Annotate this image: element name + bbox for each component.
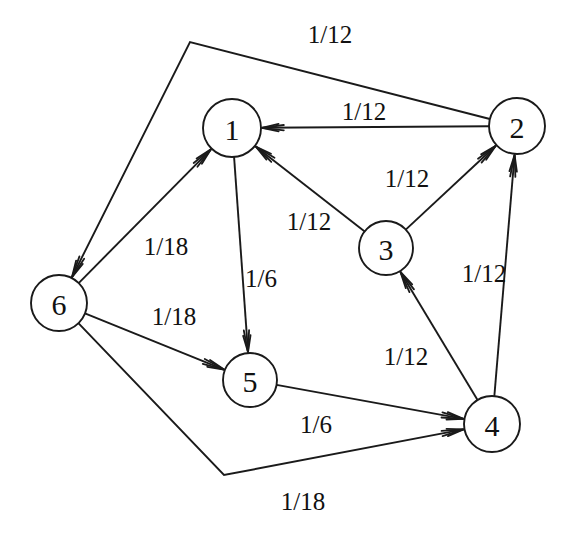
node-6-label: 6 [52, 288, 67, 321]
edge-3-to-1-weight-label: 1/12 [287, 208, 331, 235]
edge-6-to-1 [79, 149, 211, 283]
edge-2-to-6 [72, 42, 490, 277]
node-2[interactable]: 2 [489, 98, 545, 154]
edge-6-to-5-weight-label: 1/18 [152, 303, 196, 330]
edge-4-to-3-weight-label: 1/12 [384, 343, 428, 370]
edge-5-to-4-weight-label: 1/6 [300, 411, 332, 438]
node-3-label: 3 [379, 233, 394, 266]
edge-6-to-1-weight-label: 1/18 [144, 233, 188, 260]
edge-4-to-2-weight-label: 1/12 [462, 260, 506, 287]
edge-6-to-4-weight-label: 1/18 [281, 488, 325, 515]
edge-4-to-3-arrowhead-inner [400, 272, 414, 292]
edge-1-to-5-weight-label: 1/6 [245, 265, 277, 292]
edge-1-to-5 [234, 157, 248, 352]
arrowheads-layer [72, 124, 517, 436]
graph-canvas: 1/121/121/121/121/181/61/181/121/121/61/… [0, 0, 567, 534]
node-5[interactable]: 5 [223, 353, 277, 407]
node-4[interactable]: 4 [464, 396, 520, 452]
edge-2-to-1-weight-label: 1/12 [342, 98, 386, 125]
edge-4-to-3 [400, 272, 477, 400]
node-3[interactable]: 3 [359, 221, 413, 275]
edges-layer [72, 42, 515, 475]
node-1[interactable]: 1 [203, 99, 261, 157]
node-2-label: 2 [510, 111, 525, 144]
edge-2-to-6-weight-label: 1/12 [308, 21, 352, 48]
node-5-label: 5 [243, 365, 258, 398]
node-1-label: 1 [225, 113, 240, 146]
edge-3-to-2-weight-label: 1/12 [385, 165, 429, 192]
node-6[interactable]: 6 [31, 275, 87, 331]
edge-2-to-1 [262, 126, 489, 128]
edge-weight-labels-layer: 1/121/121/121/121/181/61/181/121/121/61/… [144, 21, 506, 515]
node-4-label: 4 [485, 409, 500, 442]
graph-figure: 1/121/121/121/121/181/61/181/121/121/61/… [0, 0, 567, 534]
